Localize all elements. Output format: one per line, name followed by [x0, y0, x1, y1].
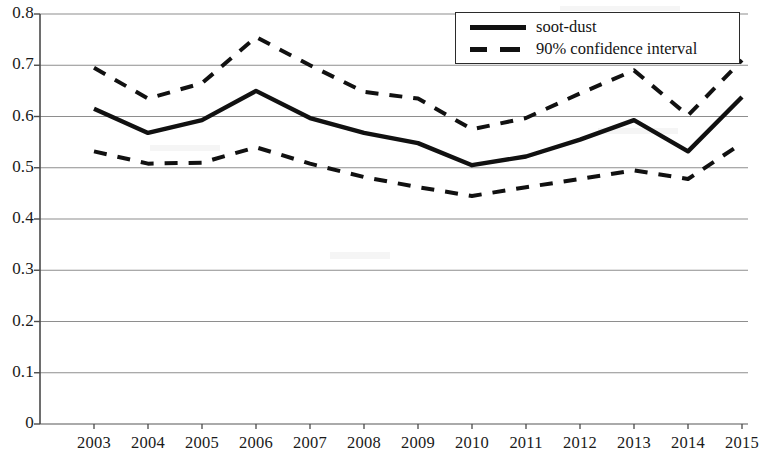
x-axis-tick-label: 2007	[280, 433, 340, 453]
x-axis-tick-label: 2008	[334, 433, 394, 453]
y-axis-tick-label: 0.2	[0, 311, 34, 331]
y-axis-tick-label: 0.4	[0, 208, 34, 228]
x-axis-tick-label: 2011	[496, 433, 556, 453]
legend-solid-line-icon	[466, 19, 528, 35]
x-axis-tick-label: 2004	[118, 433, 178, 453]
y-axis-tick-label: 0.5	[0, 157, 34, 177]
legend-item-soot-dust: soot-dust	[466, 16, 597, 38]
x-axis-tick-label: 2010	[442, 433, 502, 453]
x-axis-tick-label: 2006	[226, 433, 286, 453]
x-axis-tick-label: 2013	[604, 433, 664, 453]
y-axis-tick-label: 0.3	[0, 259, 34, 279]
legend-item-confidence-interval: 90% confidence interval	[466, 38, 697, 60]
y-axis-tick-label: 0.1	[0, 362, 34, 382]
x-axis-tick-label: 2009	[388, 433, 448, 453]
y-axis-tick-label: 0.7	[0, 54, 34, 74]
x-axis-tick-label: 2015	[712, 433, 763, 453]
y-axis-tick-label: 0.6	[0, 106, 34, 126]
y-axis-tick-label: 0.8	[0, 3, 34, 23]
series-line-confidence-lower	[94, 143, 742, 196]
legend-item-label: soot-dust	[536, 17, 597, 37]
series-line-soot-dust	[94, 91, 742, 165]
legend-dashed-line-icon	[466, 41, 528, 57]
legend-item-label: 90% confidence interval	[536, 39, 697, 59]
x-axis-tick-label: 2005	[172, 433, 232, 453]
legend: soot-dust 90% confidence interval	[455, 12, 740, 64]
y-axis-tick-label: 0	[0, 413, 34, 433]
x-axis-tick-label: 2012	[550, 433, 610, 453]
x-axis-tick-label: 2003	[64, 433, 124, 453]
x-axis-tick-label: 2014	[658, 433, 718, 453]
